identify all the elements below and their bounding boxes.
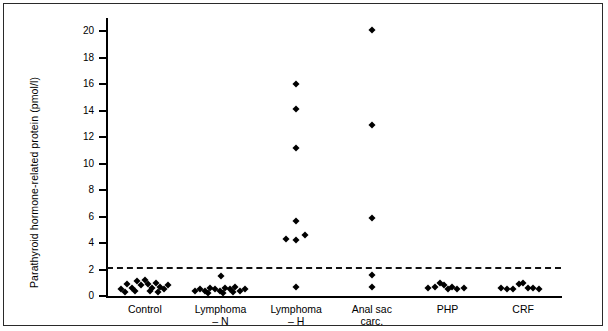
y-tick-label-20: 20 xyxy=(60,26,94,36)
y-tick-2 xyxy=(99,269,107,271)
y-tick-label-6: 6 xyxy=(60,212,94,222)
x-axis-label-line: – N xyxy=(183,315,259,327)
x-axis-label-line: Lymphoma xyxy=(258,303,334,315)
y-tick-12 xyxy=(99,136,107,138)
x-axis-label-php: PHP xyxy=(410,303,486,315)
y-tick-label-16: 16 xyxy=(60,79,94,89)
x-axis-label-control: Control xyxy=(107,303,183,315)
y-tick-4 xyxy=(99,242,107,244)
y-tick-label-2: 2 xyxy=(60,265,94,275)
x-axis-label-line: Lymphoma xyxy=(183,303,259,315)
y-tick-label-4: 4 xyxy=(60,238,94,248)
x-axis-label-crf: CRF xyxy=(485,303,561,315)
y-tick-14 xyxy=(99,110,107,112)
x-axis-label-line: carc. xyxy=(334,315,410,327)
figure-container: Parathyroid hormone-related protein (pmo… xyxy=(0,0,608,331)
y-tick-label-14: 14 xyxy=(60,106,94,116)
y-axis-line xyxy=(106,18,108,298)
x-axis-label-line: Anal sac xyxy=(334,303,410,315)
y-tick-18 xyxy=(99,57,107,59)
x-axis-label-line: – H xyxy=(258,315,334,327)
x-axis-line xyxy=(106,296,562,298)
y-tick-8 xyxy=(99,189,107,191)
x-axis-label-anal-sac-carc: Anal saccarc. xyxy=(334,303,410,327)
x-axis-label-lymphoma-n: Lymphoma– N xyxy=(183,303,259,327)
y-tick-label-18: 18 xyxy=(60,53,94,63)
threshold-reference-line xyxy=(107,267,561,269)
y-tick-label-0: 0 xyxy=(60,291,94,301)
x-axis-label-line: PHP xyxy=(410,303,486,315)
y-tick-label-8: 8 xyxy=(60,185,94,195)
y-tick-20 xyxy=(99,30,107,32)
y-tick-10 xyxy=(99,163,107,165)
x-axis-label-line: Control xyxy=(107,303,183,315)
x-axis-label-lymphoma-h: Lymphoma– H xyxy=(258,303,334,327)
y-axis-title: Parathyroid hormone-related protein (pmo… xyxy=(29,77,40,288)
y-tick-label-10: 10 xyxy=(60,159,94,169)
y-tick-6 xyxy=(99,216,107,218)
y-tick-label-12: 12 xyxy=(60,132,94,142)
y-tick-0 xyxy=(99,295,107,297)
y-tick-16 xyxy=(99,83,107,85)
x-axis-label-line: CRF xyxy=(485,303,561,315)
